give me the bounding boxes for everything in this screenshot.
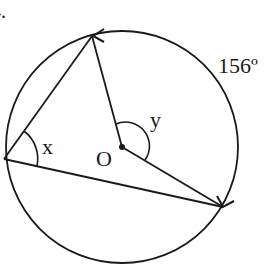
problem-number: 4. xyxy=(0,0,6,22)
chord-left-to-right xyxy=(4,159,223,207)
center-point-dot xyxy=(119,144,125,150)
circle-geometry-figure: 4. x y O 156º xyxy=(0,0,274,269)
radius-to-top xyxy=(92,36,122,147)
arc-measure-label: 156º xyxy=(218,53,258,78)
angle-y-label: y xyxy=(150,107,161,132)
arc-arrow-top-icon xyxy=(93,29,104,42)
angle-x-arc xyxy=(24,131,38,166)
diagram-canvas: 4. x y O 156º xyxy=(0,0,274,269)
angle-x-label: x xyxy=(42,134,53,159)
radius-to-right xyxy=(122,147,223,207)
center-o-label: O xyxy=(96,146,112,171)
